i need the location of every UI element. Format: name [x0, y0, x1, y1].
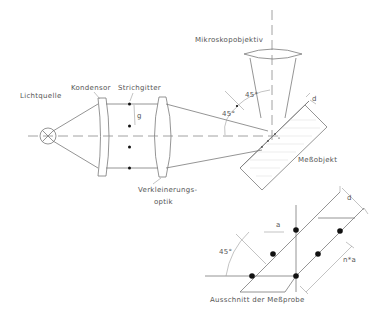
thickness-label: d — [312, 95, 317, 103]
reduction-optics-label-2: optik — [154, 198, 174, 206]
angle-upper-label: 45° — [245, 91, 258, 99]
detail-multiple-spacing-label: n*a — [343, 256, 356, 264]
reduction-optics-label-1: Verkleinerungs- — [138, 186, 197, 194]
grating-label: Strichgitter — [118, 84, 161, 92]
angle-lower-label: 45° — [222, 110, 235, 118]
condenser-label: Kondensor — [71, 84, 111, 92]
detail-spacing-label: a — [276, 221, 281, 229]
detail-thickness-label: d — [347, 194, 352, 202]
microscope-objective-label: Mikroskopobjektiv — [195, 36, 263, 44]
reduction-optics-lens — [155, 97, 172, 177]
grating-period-label: g — [137, 112, 142, 120]
light-source-label: Lichtquelle — [20, 92, 62, 100]
condenser-lens — [98, 98, 109, 176]
measurement-object-label: Meßobjekt — [298, 156, 337, 164]
optical-setup-diagram: Lichtquelle Kondensor Strichgitter g Ver… — [0, 0, 390, 317]
measurement-object — [240, 101, 327, 190]
grating — [128, 103, 131, 170]
microscope-objective-lens — [244, 49, 302, 59]
sample-detail — [205, 186, 368, 294]
detail-caption: Ausschnitt der Meßprobe — [210, 296, 305, 304]
detail-angle-label: 45° — [219, 248, 232, 256]
